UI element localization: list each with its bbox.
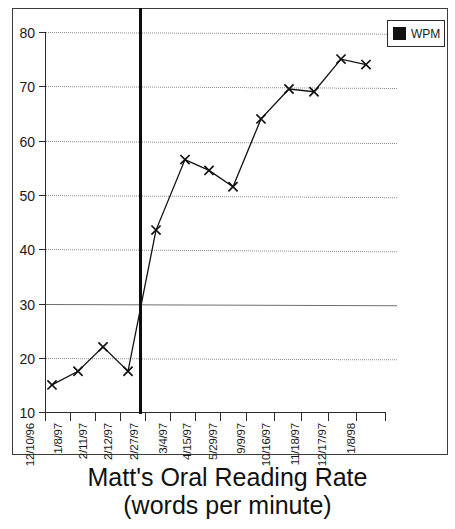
y-tick-label-60: 60 [19, 135, 35, 149]
x-tick-7 [220, 412, 221, 421]
x-tick-label-5: 3/4/97 [158, 423, 170, 454]
x-tick-4 [145, 412, 146, 421]
x-tick-8 [246, 412, 247, 421]
x-tick-9 [274, 412, 275, 421]
y-tick-70: 70 [39, 86, 45, 87]
x-tick-13 [385, 412, 386, 421]
y-tick-label-40: 40 [19, 243, 35, 257]
chart-title: Matt's Oral Reading Rate [0, 464, 455, 490]
x-tick-2 [95, 412, 96, 421]
x-tick-label-8: 9/9/97 [236, 423, 248, 454]
x-tick-label-7: 5/29/97 [208, 423, 220, 460]
gridline-60 [45, 141, 397, 144]
y-tick-label-10: 10 [19, 406, 35, 420]
legend-label-wpm: WPM [411, 28, 440, 40]
y-tick-label-50: 50 [19, 189, 35, 203]
x-tick-label-2: 2/11/97 [78, 423, 90, 459]
chart-figure: 80 70 60 50 40 30 20 10 12/10/96 1/8/97 … [0, 0, 455, 529]
gridline-70 [45, 86, 397, 89]
legend-swatch-wpm [393, 27, 406, 40]
plot-area [45, 32, 397, 412]
legend: WPM [387, 20, 445, 47]
y-tick-label-20: 20 [19, 352, 35, 366]
x-tick-6 [195, 412, 196, 421]
gridline-50 [45, 195, 397, 198]
x-tick-label-12: 1/8/98 [346, 423, 358, 454]
gridlines [45, 32, 397, 412]
gridline-40 [45, 249, 397, 252]
gridline-20 [45, 358, 397, 360]
x-axis-line [45, 412, 385, 413]
y-tick-50: 50 [39, 195, 45, 196]
x-tick-label-1: 1/8/97 [53, 423, 65, 454]
y-tick-80: 80 [39, 32, 45, 33]
chart-subtitle: (words per minute) [0, 492, 455, 518]
x-tick-label-4: 2/27/97 [129, 423, 141, 460]
y-tick-30: 30 [39, 304, 45, 305]
x-tick-label-9: 10/16/97 [261, 423, 273, 466]
x-tick-label-11: 12/17/97 [317, 423, 329, 466]
y-axis-line [45, 32, 46, 413]
x-tick-label-0: 12/10/96 [25, 423, 37, 466]
x-tick-label-3: 2/12/97 [103, 423, 115, 460]
y-tick-label-70: 70 [19, 80, 35, 94]
x-tick-0 [45, 412, 46, 421]
y-tick-label-80: 80 [19, 26, 35, 40]
y-tick-label-30: 30 [19, 298, 35, 312]
x-tick-label-10: 11/18/97 [290, 423, 302, 465]
x-tick-11 [328, 412, 329, 421]
x-tick-3 [120, 412, 121, 421]
y-tick-20: 20 [39, 358, 45, 359]
gridline-30 [45, 304, 397, 306]
y-tick-60: 60 [39, 141, 45, 142]
x-tick-label-6: 4/15/97 [182, 423, 194, 460]
y-tick-40: 40 [39, 249, 45, 250]
gridline-80 [45, 32, 397, 35]
intervention-line [139, 8, 142, 414]
x-tick-12 [356, 412, 357, 421]
x-tick-10 [301, 412, 302, 421]
x-tick-1 [70, 412, 71, 421]
x-tick-5 [170, 412, 171, 421]
